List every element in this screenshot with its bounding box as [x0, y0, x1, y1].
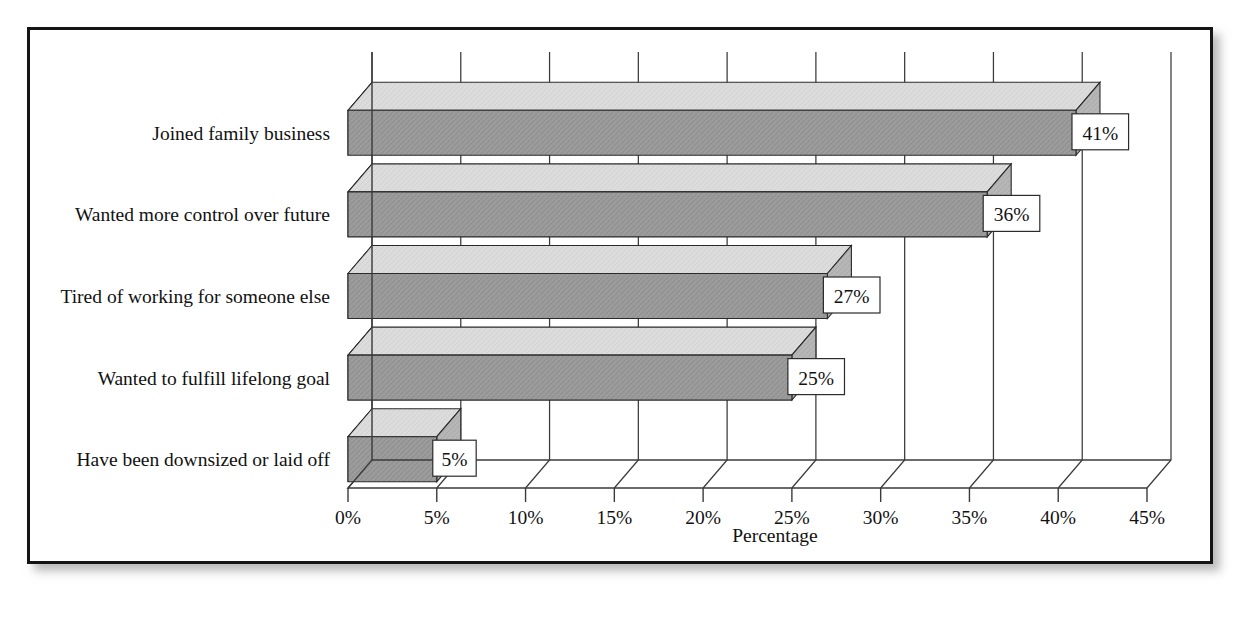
bar-wanted-more-control-over-future[interactable] [348, 164, 1011, 237]
data-label-text: 25% [798, 368, 834, 389]
bar-tired-of-working-for-someone-else[interactable] [348, 246, 851, 319]
category-label: Joined family business [152, 123, 330, 144]
data-label: 27% [823, 277, 880, 313]
data-label-text: 36% [994, 204, 1030, 225]
page-top-text-fragment [0, 0, 1250, 9]
category-label: Wanted more control over future [75, 204, 330, 225]
chart-frame: 0%5%10%15%20%25%30%35%40%45% Joined fami… [27, 27, 1213, 564]
category-label: Wanted to fulfill lifelong goal [98, 368, 331, 389]
data-label: 41% [1072, 114, 1129, 150]
x-tick-label: 0% [335, 507, 361, 528]
data-label-text: 5% [441, 449, 467, 470]
bar-joined-family-business[interactable] [348, 82, 1100, 155]
x-tick-label: 15% [596, 507, 632, 528]
screenshot-canvas: 0%5%10%15%20%25%30%35%40%45% Joined fami… [0, 0, 1250, 620]
x-tick-label: 10% [508, 507, 544, 528]
x-tick-label: 45% [1129, 507, 1165, 528]
bars-layer [348, 82, 1100, 481]
x-tick-label: 20% [685, 507, 721, 528]
data-label-text: 27% [834, 286, 870, 307]
data-label: 25% [788, 359, 845, 395]
bar-wanted-to-fulfill-lifelong-goal[interactable] [348, 327, 816, 400]
category-label: Have been downsized or laid off [76, 449, 330, 470]
data-label-text: 41% [1082, 123, 1118, 144]
gridline-45% [1147, 52, 1171, 488]
x-tick-label: 30% [863, 507, 899, 528]
category-label: Tired of working for someone else [60, 286, 330, 307]
category-labels: Joined family businessWanted more contro… [60, 123, 330, 470]
data-label: 36% [983, 195, 1040, 231]
x-tick-label: 35% [952, 507, 988, 528]
x-tick-label: 40% [1040, 507, 1076, 528]
bar-chart: 0%5%10%15%20%25%30%35%40%45% Joined fami… [30, 30, 1210, 561]
data-label: 5% [433, 440, 476, 476]
x-tick-label: 5% [424, 507, 450, 528]
x-axis-title: Percentage [732, 525, 818, 546]
